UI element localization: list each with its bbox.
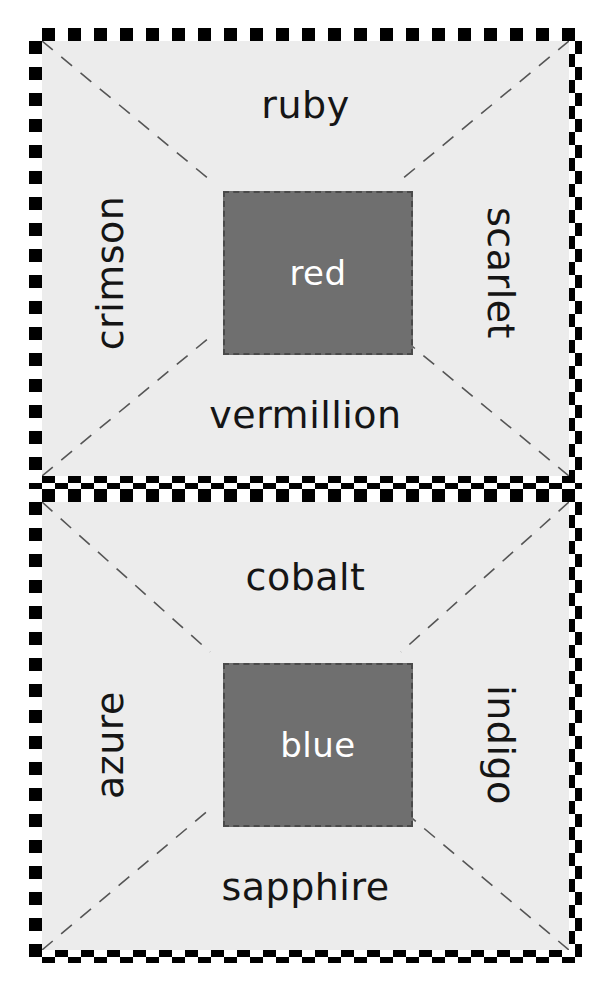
card-stack: ruby crimson scarlet vermillion red	[0, 0, 608, 983]
color-swatch[interactable]: blue	[223, 663, 413, 827]
color-card-blue[interactable]: cobalt azure indigo sapphire blue	[29, 489, 582, 963]
label-top: cobalt	[42, 558, 569, 596]
swatch-label: blue	[280, 728, 356, 762]
label-left: azure	[91, 691, 129, 799]
label-right: scarlet	[482, 207, 520, 339]
color-swatch[interactable]: red	[223, 191, 413, 355]
label-bottom: vermillion	[42, 396, 569, 434]
label-bottom: sapphire	[42, 868, 569, 906]
label-right: indigo	[482, 685, 520, 805]
card-canvas: cobalt azure indigo sapphire blue	[42, 502, 569, 950]
swatch-label: red	[289, 256, 346, 290]
label-top: ruby	[42, 86, 569, 124]
color-card-red[interactable]: ruby crimson scarlet vermillion red	[29, 28, 582, 489]
card-canvas: ruby crimson scarlet vermillion red	[42, 41, 569, 476]
label-left: crimson	[91, 196, 129, 351]
